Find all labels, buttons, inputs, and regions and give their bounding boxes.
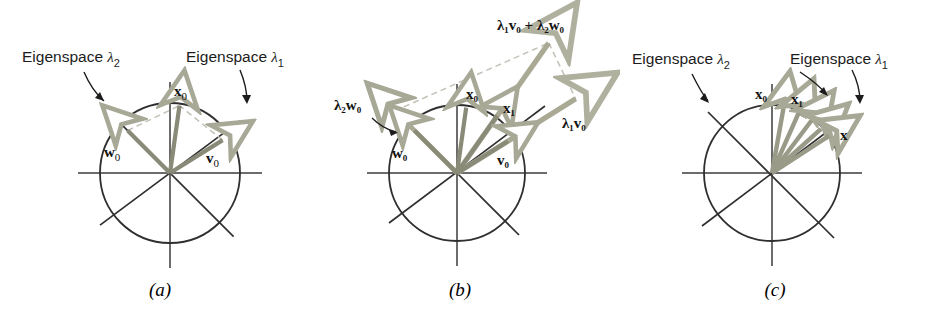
label-vector-w0: w0 [104, 144, 121, 163]
vector-w0 [415, 131, 457, 173]
label-eigenspace-lambda2: Eigenspace λ2 [632, 50, 730, 71]
label-eigenspace-lambda2: Eigenspace λ2 [22, 48, 120, 69]
label-sum-vector: λ₁v₀ + λ₂w₀ [497, 17, 565, 33]
panel-b-canvas: λ₁v₀ + λ₂w₀ λ₂w₀ λ₁v₀ x₀ x₁ w₀ v₀ (b) [320, 0, 620, 316]
vector-x0 [170, 106, 180, 173]
panel-b: λ₁v₀ + λ₂w₀ λ₂w₀ λ₁v₀ x₀ x₁ w₀ v₀ (b) [320, 0, 620, 316]
eigenspace-figure: Eigenspace λ2 Eigenspace λ1 x0 w0 v0 (a) [0, 0, 944, 316]
panel-a-canvas: Eigenspace λ2 Eigenspace λ1 x0 w0 v0 (a) [0, 0, 320, 316]
pointer-arrowhead-lambda1 [242, 95, 251, 104]
panel-c-canvas: Eigenspace λ2 Eigenspace λ1 x₀ x₁ x (c) [620, 0, 944, 316]
pointer-arrowhead-lambda1-outer [855, 95, 864, 104]
label-lambda2-w0: λ₂w₀ [334, 97, 362, 113]
label-eigenspace-lambda1: Eigenspace λ1 [186, 48, 284, 69]
pointer-arrowhead-lambda2 [700, 93, 709, 103]
panel-caption-a: (a) [149, 279, 171, 301]
dashed-construction-left [128, 106, 180, 131]
label-vector-x0: x₀ [755, 86, 768, 102]
label-vector-x1: x₁ [503, 100, 515, 116]
label-vector-x0: x₀ [466, 86, 479, 102]
label-vector-x1: x₁ [791, 91, 803, 107]
eigenline-lambda2 [708, 112, 834, 238]
panel-caption-b: (b) [449, 279, 471, 301]
label-lambda1-v0: λ₁v₀ [562, 115, 586, 131]
vector-w0 [128, 131, 170, 173]
panel-a: Eigenspace λ2 Eigenspace λ1 x0 w0 v0 (a) [0, 0, 320, 316]
panel-c: Eigenspace λ2 Eigenspace λ1 x₀ x₁ x (c) [620, 0, 944, 316]
dashed-sum-to-l1v0 [549, 43, 576, 99]
label-vector-w0: w₀ [392, 145, 408, 161]
panel-caption-c: (c) [764, 279, 785, 301]
pointer-arrow-lambda2w0 [372, 118, 396, 132]
label-eigenspace-lambda1: Eigenspace λ1 [790, 50, 888, 71]
label-vector-v0: v0 [206, 150, 220, 169]
label-vector-x0: x0 [174, 83, 188, 102]
label-vector-v0: v₀ [497, 152, 510, 168]
label-vector-x: x [840, 127, 848, 143]
